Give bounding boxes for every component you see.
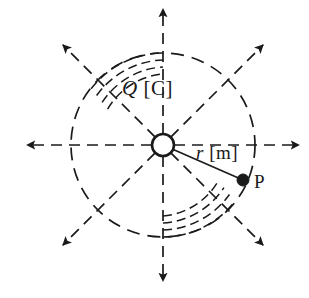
center-charge-circle (152, 134, 174, 156)
figure-canvas (0, 0, 309, 298)
field-line-up-right (171, 45, 263, 137)
field-line-down-left (63, 153, 155, 245)
field-line-up-left (63, 45, 155, 137)
electric-field-figure: Q [C] r [m] P (0, 0, 309, 298)
field-line-down-right (171, 153, 263, 245)
equipotential-arcs-upper-left (91, 53, 163, 109)
equipotential-arcs-lower-right (163, 181, 235, 237)
radius-line (163, 145, 243, 180)
point-p-marker (237, 174, 249, 186)
